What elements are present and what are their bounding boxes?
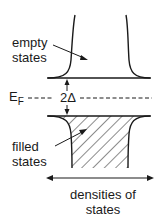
- fermi-symbol: E: [9, 89, 18, 104]
- empty-states-line-2: states: [12, 50, 47, 65]
- density-axis-head-right: [147, 175, 154, 181]
- gap-arrow-head-up: [65, 79, 70, 85]
- empty-states-pointer-head: [80, 55, 88, 60]
- empty-states-line-1: empty: [12, 35, 47, 50]
- filled-states-line-2: states: [12, 154, 47, 169]
- fermi-subscript: F: [18, 96, 24, 107]
- density-axis-label: densities of states: [60, 187, 146, 217]
- empty-states-pointer: [53, 45, 84, 58]
- empty-states-label: empty states: [12, 35, 47, 65]
- filled-states-line-1: filled: [12, 139, 47, 154]
- axis-label-line-1: densities of: [60, 187, 146, 202]
- gap-arrow-head-down: [65, 109, 70, 115]
- fermi-level-label: EF: [9, 90, 24, 109]
- density-axis-head-left: [46, 175, 53, 181]
- filled-states-label: filled states: [12, 139, 47, 169]
- gap-label: 2Δ: [59, 91, 77, 105]
- axis-label-line-2: states: [60, 202, 146, 217]
- empty-states-curve: [48, 15, 150, 78]
